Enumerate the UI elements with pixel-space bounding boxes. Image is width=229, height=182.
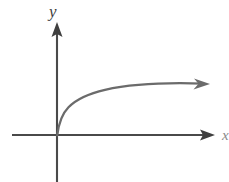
y-axis-label: y: [49, 3, 57, 20]
x-axis-label: x: [222, 128, 229, 143]
sqrt-curve: [57, 83, 203, 135]
graph-canvas: [0, 0, 229, 182]
math-graph-figure: y x: [0, 0, 229, 182]
